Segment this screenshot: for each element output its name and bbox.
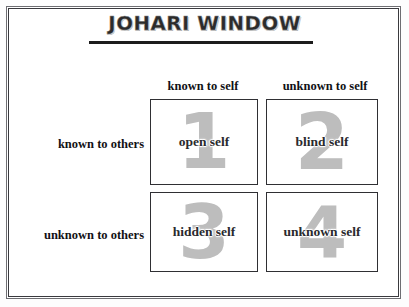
column-header-known-to-self: known to self (148, 78, 258, 94)
quadrant-blind-self: 2 blind self (266, 99, 378, 185)
row-header-unknown-to-others: unknown to others (4, 227, 144, 243)
quadrant-label-unknown-self: unknown self (267, 224, 377, 240)
diagram-title-block: JOHARI WINDOW (0, 12, 409, 34)
column-headers: known to self unknown to self (148, 78, 384, 94)
quadrant-label-blind-self: blind self (267, 134, 377, 150)
quadrant-unknown-self: 4 unknown self (266, 192, 378, 272)
diagram-title: JOHARI WINDOW (108, 12, 301, 34)
quadrant-label-open-self: open self (151, 134, 257, 150)
column-header-unknown-to-self: unknown to self (266, 78, 384, 94)
johari-window-diagram: JOHARI WINDOW known to self unknown to s… (0, 0, 409, 307)
quadrant-hidden-self: 3 hidden self (150, 192, 258, 272)
row-header-known-to-others: known to others (14, 136, 144, 152)
title-underline-rule (89, 41, 313, 44)
quadrant-label-hidden-self: hidden self (151, 224, 257, 240)
quadrant-open-self: 1 open self (150, 99, 258, 185)
